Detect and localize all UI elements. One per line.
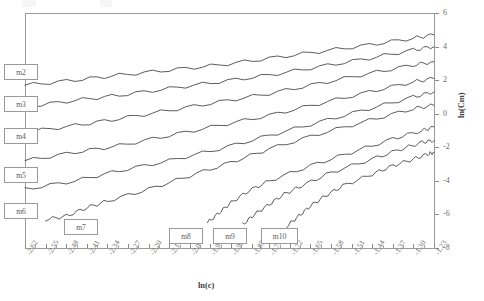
series-label-m2: m2 <box>4 64 38 80</box>
y-tick-label: -4 <box>443 176 450 185</box>
y-tick-label: -6 <box>443 209 450 218</box>
curve-m9 <box>243 140 434 224</box>
y-tick <box>435 147 439 148</box>
y-tick <box>435 181 439 182</box>
series-label-m9: m9 <box>213 228 247 244</box>
y-axis-title: ln(Cm) <box>457 92 466 118</box>
y-tick-label: 4 <box>443 42 447 51</box>
curve-m10 <box>287 152 434 228</box>
y-tick <box>435 80 439 81</box>
curve-m7 <box>46 104 434 221</box>
y-tick <box>435 114 439 115</box>
series-label-m6: m6 <box>4 203 38 219</box>
series-label-m8: m8 <box>169 228 203 244</box>
y-tick-label: 0 <box>443 109 447 118</box>
y-tick <box>435 13 439 14</box>
y-tick-label: 2 <box>443 75 447 84</box>
curve-m6 <box>25 92 434 189</box>
series-label-m5: m5 <box>4 167 38 183</box>
series-label-m7: m7 <box>64 219 98 235</box>
curve-m3 <box>25 47 434 107</box>
curve-m2 <box>25 34 434 85</box>
series-label-m10: m10 <box>261 228 298 244</box>
y-tick <box>435 47 439 48</box>
y-tick <box>435 214 439 215</box>
y-tick-label: -2 <box>443 142 450 151</box>
series-label-m4: m4 <box>4 128 38 144</box>
chart-canvas: -2.62-2.55-2.48-2.41-2.34-2.27-2.20-2.13… <box>0 0 484 301</box>
y-tick-label: -8 <box>443 243 450 252</box>
curve-m8 <box>207 126 434 223</box>
y-tick-label: 6 <box>443 8 447 17</box>
x-axis-title: ln(c) <box>198 281 214 290</box>
series-label-m3: m3 <box>4 96 38 112</box>
